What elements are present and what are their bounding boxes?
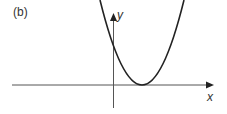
x-axis-label: x	[207, 91, 213, 103]
parabola-curve	[100, 0, 184, 85]
graph-figure: (b) y x	[0, 0, 227, 114]
y-axis-label: y	[117, 9, 123, 21]
plot-area	[0, 0, 227, 114]
x-axis-arrow-icon	[206, 82, 214, 89]
y-axis-arrow-icon	[110, 13, 117, 21]
